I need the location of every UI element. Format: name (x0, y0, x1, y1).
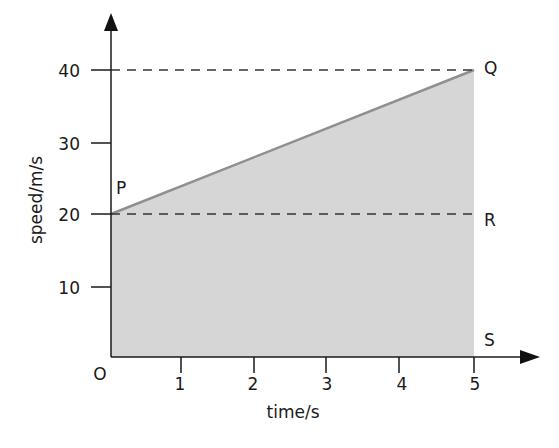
y-axis-title: speed/m/s (26, 156, 46, 244)
point-label-r: R (484, 210, 496, 230)
x-tick-label-4: 4 (397, 374, 408, 394)
x-axis-title: time/s (267, 402, 320, 422)
point-label-q: Q (484, 58, 497, 78)
point-label-s: S (484, 330, 495, 350)
y-tick-label-40: 40 (58, 61, 80, 81)
y-tick-label-10: 10 (58, 278, 80, 298)
x-ticks (181, 357, 474, 373)
y-tick-label-30: 30 (58, 134, 80, 154)
point-label-p: P (116, 178, 126, 198)
y-axis-arrow-icon (104, 13, 118, 31)
x-tick-label-5: 5 (470, 374, 481, 394)
x-tick-label-1: 1 (175, 374, 186, 394)
origin-label: O (93, 364, 106, 384)
y-tick-label-20: 20 (58, 205, 80, 225)
x-axis-arrow-icon (520, 350, 540, 364)
speed-time-graph: 40 30 20 10 1 2 3 4 5 O P Q R S time/s s… (0, 0, 559, 448)
y-ticks (91, 70, 111, 287)
x-tick-label-3: 3 (322, 374, 333, 394)
x-tick-label-2: 2 (248, 374, 259, 394)
